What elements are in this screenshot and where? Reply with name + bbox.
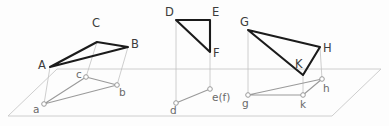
node-a [42, 102, 47, 107]
geometry-figure: A B C a b c D E F d e(f) [0, 0, 389, 126]
vertex-label-b: b [119, 86, 126, 98]
vertex-label-H: H [323, 41, 332, 55]
vertex-label-F: F [213, 46, 220, 60]
node-c [84, 75, 89, 80]
figure-canvas: A B C a b c D E F d e(f) [0, 0, 389, 126]
vertex-label-B: B [131, 37, 139, 51]
vertex-label-C: C [92, 16, 100, 30]
vertex-label-d: d [170, 104, 177, 116]
vertex-label-D: D [165, 5, 174, 19]
projector-a [44, 67, 50, 104]
figure-group-abc: A B C a b c [33, 16, 139, 115]
vertex-label-G: G [240, 15, 249, 29]
vertex-label-a: a [33, 103, 39, 115]
vertex-label-h: h [323, 82, 330, 94]
node-h [320, 77, 325, 82]
vertex-label-A: A [38, 58, 46, 72]
node-k [301, 93, 306, 98]
vertex-label-E: E [212, 5, 219, 19]
figure-group-def: D E F d e(f) [165, 5, 230, 116]
projection-triangle-ghk [248, 79, 322, 95]
vertex-label-k: k [300, 98, 307, 110]
vertex-label-g: g [242, 97, 249, 109]
projector-b [117, 47, 128, 85]
vertex-label-ef: e(f) [212, 91, 230, 103]
solid-triangle-def [176, 20, 210, 52]
solid-triangle-ghk [248, 30, 320, 75]
solid-triangle-abc [50, 42, 128, 67]
vertex-label-c: c [76, 68, 82, 80]
figure-group-ghk: G H K g h k [240, 15, 332, 110]
projection-segment-de [176, 89, 210, 103]
projector-h [320, 47, 322, 79]
projection-triangle-abc [44, 77, 117, 104]
vertex-label-K: K [295, 57, 303, 71]
